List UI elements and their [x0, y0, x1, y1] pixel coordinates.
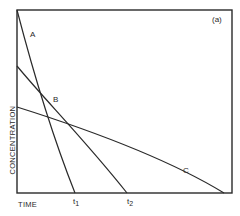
plot-frame [17, 10, 232, 193]
curve-b-label: B [53, 95, 58, 104]
x-tick-t2-sub: 2 [129, 200, 133, 207]
curve-c-label: C [183, 166, 189, 175]
x-axis-label: TIME [18, 200, 37, 209]
curve-a [17, 10, 75, 193]
x-tick-t1: t1 [73, 197, 79, 207]
curve-c [17, 107, 224, 193]
curve-a-label: A [30, 30, 35, 39]
x-tick-t2: t2 [127, 197, 133, 207]
curve-b [17, 66, 127, 193]
panel-label: (a) [212, 15, 222, 24]
x-tick-t1-sub: 1 [75, 200, 79, 207]
y-axis-label: CONCENTRATION [8, 115, 17, 175]
chart-plot-area [0, 0, 240, 216]
